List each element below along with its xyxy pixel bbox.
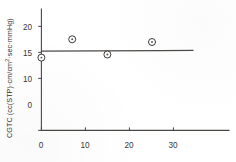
- data-point-marker: [69, 36, 76, 43]
- plot-area: [0, 0, 236, 162]
- data-point-marker: [104, 51, 111, 58]
- chart-figure: CGTC (cc(STP)·cm/cm2·sec·mmHg) 0 10 15 2…: [0, 0, 236, 162]
- fit-line-segment-a: [41, 51, 160, 52]
- data-point-marker: [149, 39, 156, 46]
- data-point-marker: [38, 54, 45, 61]
